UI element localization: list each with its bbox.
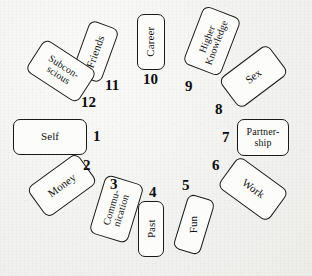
house-card-1[interactable]: Self bbox=[13, 119, 87, 155]
house-card-label: Money bbox=[46, 172, 78, 200]
house-card-6[interactable]: Work bbox=[217, 155, 289, 222]
house-number-9: 9 bbox=[185, 79, 193, 94]
house-card-label: Subcon- scious bbox=[41, 53, 81, 89]
house-card-label: Higher Knowledge bbox=[194, 15, 230, 66]
diagram-canvas: SelfMoneyCommu- nicationPastFunWorkPartn… bbox=[0, 0, 312, 276]
house-card-label: Work bbox=[240, 177, 267, 201]
house-number-10: 10 bbox=[143, 72, 158, 87]
house-card-label: Self bbox=[41, 131, 59, 142]
house-card-5[interactable]: Fun bbox=[172, 193, 215, 256]
house-number-4: 4 bbox=[149, 185, 157, 200]
house-number-11: 11 bbox=[105, 78, 119, 93]
house-number-6: 6 bbox=[212, 158, 220, 173]
house-card-label: Career bbox=[145, 27, 156, 57]
house-card-4[interactable]: Past bbox=[138, 201, 164, 257]
house-card-7[interactable]: Partner- ship bbox=[237, 119, 289, 156]
house-number-8: 8 bbox=[215, 102, 223, 117]
house-card-label: Past bbox=[145, 220, 156, 239]
house-number-2: 2 bbox=[83, 158, 91, 173]
house-card-label: Friends bbox=[84, 34, 106, 70]
house-number-1: 1 bbox=[93, 129, 101, 144]
house-card-label: Partner- ship bbox=[247, 127, 280, 148]
house-card-9[interactable]: Higher Knowledge bbox=[182, 5, 242, 77]
house-number-7: 7 bbox=[222, 130, 230, 145]
house-card-10[interactable]: Career bbox=[137, 14, 165, 70]
house-number-12: 12 bbox=[81, 95, 96, 110]
house-card-label: Commu- nication bbox=[101, 189, 131, 230]
house-card-label: Sex bbox=[243, 67, 263, 86]
house-number-5: 5 bbox=[182, 178, 190, 193]
house-number-3: 3 bbox=[110, 177, 118, 192]
house-card-label: Fun bbox=[188, 216, 199, 233]
